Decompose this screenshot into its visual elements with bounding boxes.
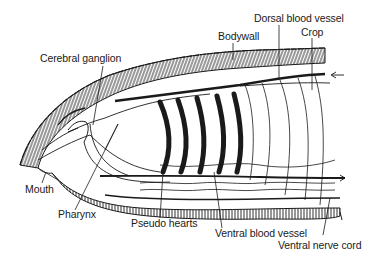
pharynx <box>90 94 210 172</box>
crop-segments <box>245 76 323 205</box>
label-crop: Crop <box>301 27 323 38</box>
label-mouth: Mouth <box>25 184 54 195</box>
pseudo-hearts <box>160 94 241 172</box>
label-bodywall: Bodywall <box>218 31 259 42</box>
label-pseudo-hearts: Pseudo hearts <box>131 218 197 229</box>
label-dorsal-blood-vessel: Dorsal blood vessel <box>254 13 344 24</box>
label-cerebral-ganglion: Cerebral ganglion <box>40 53 121 64</box>
label-pharynx: Pharynx <box>58 209 96 220</box>
label-ventral-blood-vessel: Ventral blood vessel <box>215 228 307 239</box>
label-ventral-nerve-cord: Ventral nerve cord <box>278 240 361 251</box>
